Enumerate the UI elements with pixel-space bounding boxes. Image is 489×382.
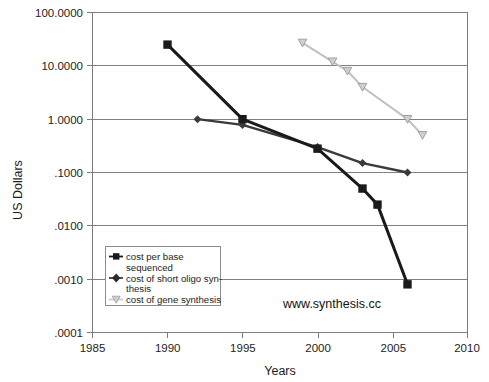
x-tick-label: 2000 (305, 342, 331, 354)
y-tick-label: .0010 (54, 274, 83, 286)
data-point-square (238, 115, 246, 123)
legend-label-cont: sequenced (126, 262, 173, 273)
x-tick-label: 1995 (230, 342, 256, 354)
y-tick-label: 1.0000 (48, 114, 83, 126)
watermark-text: www.synthesis.cc (282, 297, 381, 311)
data-point-square (313, 144, 321, 152)
legend[interactable]: cost per base sequenced cost of short ol… (106, 247, 222, 306)
legend-label-cont: thesis (126, 283, 151, 294)
y-tick-label: 10.0000 (41, 60, 83, 72)
x-axis-title: Years (264, 364, 296, 378)
legend-item-gene[interactable]: cost of gene synthesis (109, 294, 221, 305)
y-tick-label: .0001 (54, 327, 83, 339)
y-axis-title: US Dollars (11, 160, 25, 220)
data-point-square (373, 200, 381, 208)
chart-svg: 100.0000 10.0000 1.0000 .1000 .0100 .001… (0, 0, 489, 382)
legend-label: cost of short oligo syn- (126, 273, 222, 284)
square-marker-icon (113, 253, 119, 259)
x-tick-label: 2005 (381, 342, 407, 354)
cost-trends-line-chart: 100.0000 10.0000 1.0000 .1000 .0100 .001… (0, 0, 489, 382)
y-tick-label: .0100 (54, 220, 83, 232)
y-tick-label: .1000 (54, 167, 83, 179)
data-point-square (163, 40, 171, 48)
legend-label: cost per base (126, 251, 184, 262)
data-point-square (403, 280, 411, 288)
legend-label: cost of gene synthesis (126, 294, 221, 305)
x-tick-label: 2010 (454, 342, 480, 354)
y-tick-label: 100.0000 (35, 7, 83, 19)
chart-background (0, 0, 489, 382)
x-tick-label: 1990 (155, 342, 181, 354)
data-point-square (358, 184, 366, 192)
x-tick-label: 1985 (80, 342, 106, 354)
